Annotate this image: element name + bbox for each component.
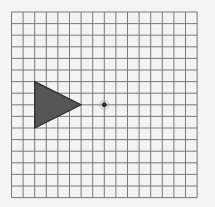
grid-diagram <box>0 0 215 207</box>
